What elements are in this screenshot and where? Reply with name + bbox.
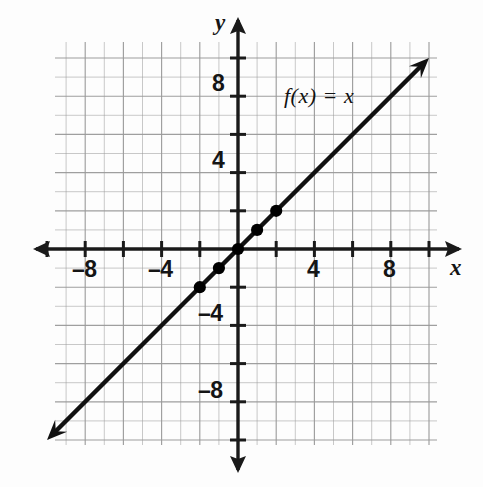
function-equation-label: f(x) = x xyxy=(284,83,354,109)
y-axis-label: y xyxy=(215,10,225,36)
y-axis-tick-label: 8 xyxy=(212,70,224,97)
x-axis-tick-label: 4 xyxy=(307,256,319,283)
plotted-point xyxy=(194,281,206,293)
plotted-point xyxy=(213,262,225,274)
y-axis-tick-label: –8 xyxy=(198,377,223,404)
plotted-point xyxy=(251,224,263,236)
x-axis-tick-label: 8 xyxy=(383,256,395,283)
x-axis-tick-label: –8 xyxy=(72,256,97,283)
plotted-point xyxy=(270,205,282,217)
graph-figure: –8–44884–4–8 y x f(x) = x xyxy=(0,0,483,487)
x-axis-label: x xyxy=(450,255,462,281)
coordinate-plane xyxy=(0,0,483,487)
y-axis-tick-label: –4 xyxy=(198,300,223,327)
y-axis-tick-label: 4 xyxy=(212,147,224,174)
plotted-point xyxy=(232,243,244,255)
axes xyxy=(33,17,462,473)
x-axis-tick-label: –4 xyxy=(148,256,173,283)
